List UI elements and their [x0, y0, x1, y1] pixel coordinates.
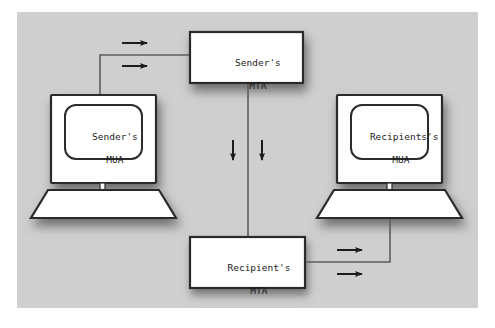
recipient-mta-box[interactable] [190, 237, 305, 288]
diagram-figure: Sender's MTA Recipient's MTA Sender's MU… [0, 0, 495, 328]
sender-mua-keyboard [31, 190, 176, 218]
recipient-mua-computer[interactable] [317, 95, 462, 218]
connector-recipient-mta-to-recipient-mua [305, 218, 390, 262]
recipient-mua-keyboard [317, 190, 462, 218]
diagram-canvas [0, 0, 495, 328]
connector-sender-mua-to-sender-mta [100, 55, 190, 97]
sender-mua-computer[interactable] [31, 95, 176, 218]
sender-mta-box[interactable] [190, 32, 303, 83]
recipient-mua-screen [351, 105, 428, 159]
sender-mua-screen [65, 105, 142, 159]
